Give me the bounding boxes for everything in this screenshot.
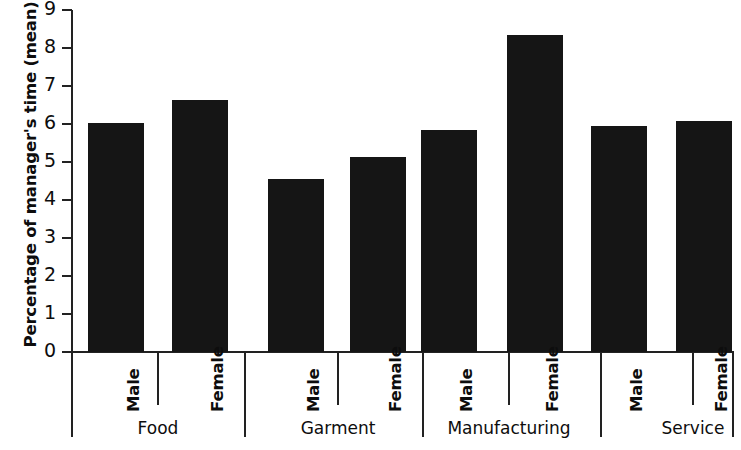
category-label-female: Female [712, 322, 731, 412]
bar-chart-figure: Percentage of manager's time (mean) 0123… [0, 0, 741, 450]
y-tick-label: 2 [30, 265, 56, 285]
category-label-female: Female [208, 322, 227, 412]
category-tick-minor [508, 353, 510, 405]
category-tick-minor [692, 353, 694, 405]
y-tick-mark [62, 85, 72, 87]
category-label-male: Male [627, 322, 646, 412]
category-label-female: Female [543, 322, 562, 412]
y-tick-label-text: 0 [30, 341, 56, 360]
y-tick-label: 7 [30, 75, 56, 95]
y-tick-label-text: 5 [30, 151, 56, 170]
y-tick-mark [62, 47, 72, 49]
category-tick-minor [337, 353, 339, 405]
y-tick-label-text: 3 [30, 227, 56, 246]
y-tick-mark [62, 237, 72, 239]
y-tick-label-text: 8 [30, 37, 56, 56]
bar-service-female [676, 121, 732, 352]
y-axis-label: Percentage of manager's time (mean) [21, 8, 40, 348]
group-label-manufacturing: Manufacturing [419, 418, 599, 438]
y-tick-mark [62, 199, 72, 201]
y-tick-mark [62, 313, 72, 315]
category-tick-minor [157, 353, 159, 405]
y-tick-label: 8 [30, 37, 56, 57]
y-tick-mark [62, 123, 72, 125]
y-tick-label: 0 [30, 341, 56, 361]
bar-food-female [172, 100, 228, 352]
y-tick-mark [62, 275, 72, 277]
y-tick-label: 6 [30, 113, 56, 133]
y-tick-label-text: 9 [30, 0, 56, 18]
y-axis-line [71, 10, 73, 353]
y-tick-label-text: 4 [30, 189, 56, 208]
y-tick-label-text: 7 [30, 75, 56, 94]
group-label-service: Service [603, 418, 741, 438]
y-tick-label: 1 [30, 303, 56, 323]
y-tick-label: 3 [30, 227, 56, 247]
bar-manufacturing-male [421, 130, 477, 352]
bar-manufacturing-female [507, 35, 563, 352]
category-label-male: Male [457, 322, 476, 412]
category-label-female: Female [386, 322, 405, 412]
group-label-food: Food [68, 418, 248, 438]
y-tick-mark [62, 161, 72, 163]
category-label-male: Male [124, 322, 143, 412]
group-label-garment: Garment [248, 418, 428, 438]
category-label-male: Male [304, 322, 323, 412]
group-tick-major [600, 353, 602, 437]
y-tick-mark [62, 9, 72, 11]
y-tick-label-text: 2 [30, 265, 56, 284]
y-tick-label: 9 [30, 0, 56, 19]
y-tick-label: 4 [30, 189, 56, 209]
y-tick-label-text: 6 [30, 113, 56, 132]
y-tick-label-text: 1 [30, 303, 56, 322]
bar-food-male [88, 123, 144, 352]
bar-service-male [591, 126, 647, 352]
y-tick-label: 5 [30, 151, 56, 171]
